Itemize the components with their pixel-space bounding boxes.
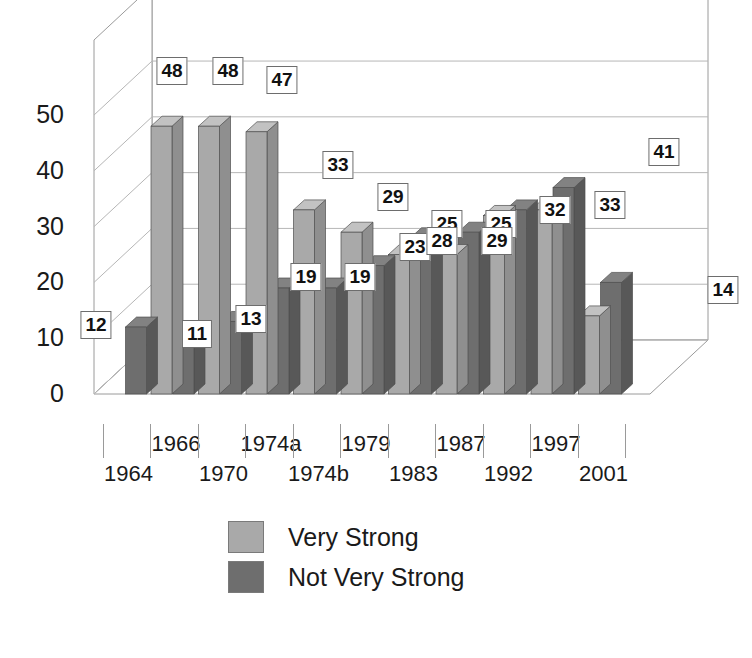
data-label: 12 <box>80 311 111 339</box>
data-label: 48 <box>212 57 243 85</box>
x-axis-tick-mark <box>293 424 294 458</box>
x-axis-tick-mark <box>388 424 389 458</box>
data-label: 33 <box>322 151 353 179</box>
data-label: 14 <box>707 276 738 304</box>
data-label: 32 <box>539 196 570 224</box>
legend-swatch-not-very-strong <box>228 561 264 593</box>
data-label: 19 <box>290 263 321 291</box>
x-axis-tick-1987: 1987 <box>437 432 486 456</box>
x-axis-tick-2001: 2001 <box>579 462 628 486</box>
legend-label-very-strong: Very Strong <box>288 525 419 550</box>
x-axis-tick-1979: 1979 <box>342 432 391 456</box>
x-axis-tick-mark <box>103 424 104 458</box>
x-axis-tick-1970: 1970 <box>199 462 248 486</box>
bar-chart: 01020304050 1248114813471933192923252825… <box>0 0 752 658</box>
x-axis-tick-mark <box>150 424 151 458</box>
data-label: 11 <box>182 320 212 348</box>
data-label: 28 <box>426 227 457 255</box>
x-axis-tick-1983: 1983 <box>389 462 438 486</box>
y-axis-tick-20: 20 <box>18 269 64 294</box>
legend-swatch-very-strong <box>228 521 264 553</box>
x-axis-tick-mark <box>625 424 626 458</box>
x-axis-tick-mark <box>340 424 341 458</box>
data-label: 47 <box>266 66 297 94</box>
x-axis-tick-1974b: 1974b <box>288 462 349 486</box>
y-axis-tick-50: 50 <box>18 102 64 127</box>
x-axis-tick-1966: 1966 <box>152 432 201 456</box>
x-axis-tick-1992: 1992 <box>484 462 533 486</box>
chart-legend: Very Strong Not Very Strong <box>228 517 464 597</box>
y-axis-tick-10: 10 <box>18 325 64 350</box>
data-label: 19 <box>344 263 375 291</box>
x-axis-tick-1997: 1997 <box>532 432 581 456</box>
x-axis-tick-mark <box>578 424 579 458</box>
x-axis-tick-mark <box>483 424 484 458</box>
x-axis-tick-1964: 1964 <box>104 462 153 486</box>
data-label: 29 <box>481 227 512 255</box>
y-axis-tick-40: 40 <box>18 158 64 183</box>
data-label: 41 <box>648 138 679 166</box>
plot-area: 12481148134719331929232528252932334114 <box>76 22 676 410</box>
data-label: 33 <box>594 191 625 219</box>
y-axis-tick-30: 30 <box>18 214 64 239</box>
x-axis-tick-mark <box>245 424 246 458</box>
bar <box>126 317 158 394</box>
legend-item-very-strong: Very Strong <box>228 517 464 557</box>
data-label: 29 <box>377 183 408 211</box>
legend-item-not-very-strong: Not Very Strong <box>228 557 464 597</box>
x-axis-tick-mark <box>435 424 436 458</box>
data-label: 48 <box>156 57 187 85</box>
legend-label-not-very-strong: Not Very Strong <box>288 565 464 590</box>
data-label: 13 <box>235 305 266 333</box>
x-axis-tick-mark <box>530 424 531 458</box>
x-axis-tick-mark <box>198 424 199 458</box>
y-axis-tick-0: 0 <box>18 381 64 406</box>
